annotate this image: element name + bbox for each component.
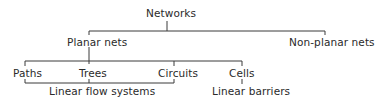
group-linear-flow-systems: Linear flow systems bbox=[49, 85, 155, 97]
node-cells: Cells bbox=[229, 67, 255, 79]
node-trees: Trees bbox=[79, 67, 107, 79]
node-planar-nets: Planar nets bbox=[67, 36, 127, 48]
node-non-planar-nets: Non-planar nets bbox=[289, 36, 375, 48]
node-networks: Networks bbox=[146, 7, 196, 19]
group-linear-barriers: Linear barriers bbox=[212, 85, 290, 97]
node-circuits: Circuits bbox=[158, 67, 198, 79]
node-paths: Paths bbox=[13, 67, 42, 79]
